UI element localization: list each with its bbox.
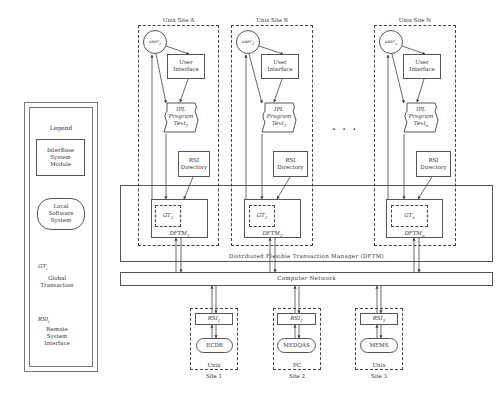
connector-arrows xyxy=(0,0,499,401)
